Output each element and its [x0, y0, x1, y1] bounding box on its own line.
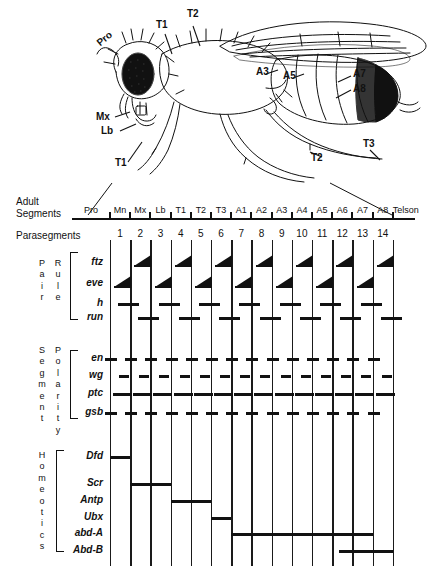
eve-baseline-ps1	[114, 286, 131, 288]
h-stripe-ps5	[199, 303, 220, 306]
h-stripe-ps9	[280, 303, 301, 306]
fly-label-a5: A5	[283, 70, 296, 81]
wg-stripe-ps2	[139, 375, 149, 378]
adult-segment-tick	[351, 212, 353, 220]
ftz-baseline-ps2	[134, 265, 151, 267]
gene-label-h: h	[97, 297, 103, 308]
adult-segment-tick	[311, 212, 313, 220]
adult-segment-tick	[129, 212, 131, 220]
parasegment-number-8: 8	[251, 228, 271, 239]
group-label-polarity-text: Polarity	[55, 345, 61, 435]
h-stripe-ps1	[118, 303, 139, 306]
group-label-pair-text: Pair	[39, 258, 45, 302]
adult-segment-tick	[291, 212, 293, 220]
wg-stripe-ps10	[301, 375, 311, 378]
wg-stripe-ps9	[281, 375, 291, 378]
en-stripe-ps1	[105, 358, 117, 361]
ptc-band-ps7	[234, 393, 253, 396]
wg-stripe-ps8	[260, 375, 270, 378]
en-stripe-ps6	[206, 358, 218, 361]
gsb-stripe-ps1	[105, 412, 117, 415]
en-stripe-ps4	[166, 358, 178, 361]
ptc-band-ps13	[355, 393, 374, 396]
gsb-stripe-ps5	[186, 412, 198, 415]
eve-baseline-ps3	[155, 286, 172, 288]
wg-stripe-ps4	[180, 375, 190, 378]
run-stripe-ps14	[381, 317, 402, 320]
fly-label-t1-leg: T1	[115, 157, 127, 168]
en-stripe-ps10	[287, 358, 299, 361]
h-stripe-ps3	[159, 303, 180, 306]
adult-segment-a7: A7	[352, 205, 372, 215]
gene-label-ptc: ptc	[88, 387, 103, 398]
gsb-stripe-ps10	[287, 412, 299, 415]
parasegment-number-3: 3	[150, 228, 170, 239]
ptc-band-ps9	[275, 393, 294, 396]
wg-stripe-ps5	[200, 375, 210, 378]
group-label-pair: Pair	[36, 258, 48, 304]
wg-stripe-ps11	[321, 375, 331, 378]
ptc-band-ps6	[214, 393, 233, 396]
ptc-band-ps2	[133, 393, 152, 396]
gene-label-en: en	[91, 352, 103, 363]
gene-label-wg: wg	[89, 369, 103, 380]
h-stripe-ps11	[320, 303, 341, 306]
parasegments-label: Parasegments	[16, 230, 80, 241]
hox-domain-ubx	[211, 517, 231, 520]
ftz-baseline-ps4	[175, 265, 192, 267]
parasegment-number-9: 9	[272, 228, 292, 239]
wg-stripe-ps13	[361, 375, 371, 378]
gene-label-antp: Antp	[80, 494, 103, 505]
adult-segment-a8: A8	[373, 205, 393, 215]
en-stripe-ps14	[368, 358, 380, 361]
group-label-homeotics-text: Homeotics	[38, 450, 46, 551]
grid-line-10	[312, 240, 313, 566]
fly-label-a7: A7	[353, 68, 366, 79]
fly-label-t1-head: T1	[156, 19, 168, 30]
adult-segment-a3: A3	[272, 205, 292, 215]
grid-line-6	[231, 240, 232, 566]
ftz-baseline-ps8	[256, 265, 273, 267]
group-label-rule-text: Rule	[55, 258, 62, 302]
fly-label-t2-leg: T2	[311, 152, 323, 163]
gsb-stripe-ps6	[206, 412, 218, 415]
fly-label-mx: Mx	[96, 111, 110, 122]
group-label-segment: Segment	[36, 345, 48, 425]
group-label-rule: Rule	[52, 258, 64, 304]
hox-domain-abd-b	[339, 550, 393, 553]
group-label-segment-text: Segment	[38, 345, 46, 423]
eve-baseline-ps5	[195, 286, 212, 288]
adult-segment-lb: Lb	[150, 205, 170, 215]
en-stripe-ps8	[246, 358, 258, 361]
adult-segment-t1: T1	[171, 205, 191, 215]
adult-segment-tick	[190, 212, 192, 220]
ptc-band-ps14	[376, 393, 395, 396]
adult-segment-telson: Telson	[393, 205, 415, 215]
adult-segment-tick	[230, 212, 232, 220]
parasegment-number-14: 14	[373, 228, 393, 239]
grid-line-2	[150, 240, 151, 566]
parasegment-number-5: 5	[191, 228, 211, 239]
gene-label-dfd: Dfd	[86, 450, 103, 461]
run-stripe-ps2	[138, 317, 159, 320]
ptc-band-ps10	[295, 393, 314, 396]
adult-segment-pro: Pro	[72, 205, 110, 215]
adult-segments-rule	[72, 218, 415, 220]
fly-label-a3: A3	[256, 66, 269, 77]
gsb-stripe-ps9	[267, 412, 279, 415]
parasegment-number-4: 4	[171, 228, 191, 239]
adult-segment-tick	[271, 212, 273, 220]
en-stripe-ps5	[186, 358, 198, 361]
figure-root: Pro T1 T2 A3 A5 A7 A8 Mx Lb T1 T2 T3 Adu…	[0, 0, 428, 582]
gsb-stripe-ps13	[347, 412, 359, 415]
gsb-stripe-ps3	[145, 412, 157, 415]
group-label-homeotics: Homeotics	[36, 450, 48, 553]
run-stripe-ps8	[260, 317, 281, 320]
gene-label-gsb: gsb	[85, 406, 103, 417]
adult-segment-tick	[149, 212, 151, 220]
gsb-stripe-ps11	[307, 412, 319, 415]
adult-segment-mn: Mn	[110, 205, 130, 215]
en-stripe-ps7	[226, 358, 238, 361]
parasegment-number-1: 1	[110, 228, 130, 239]
adult-segment-a1: A1	[231, 205, 251, 215]
